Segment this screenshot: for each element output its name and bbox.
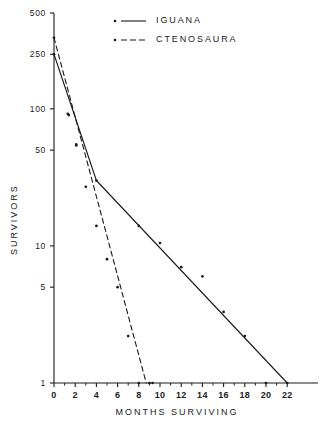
- data-point-iguana: [243, 335, 246, 338]
- series-line-ctenosaura: [54, 38, 146, 383]
- data-point-ctenosaura: [67, 114, 70, 117]
- x-axis-tick-label: 16: [218, 390, 229, 400]
- data-point-iguana: [53, 53, 56, 56]
- x-axis-title: MONTHS SURVIVING: [116, 407, 239, 417]
- legend-label-iguana: IGUANA: [156, 15, 202, 25]
- x-axis-tick-label: 4: [94, 390, 99, 400]
- x-axis-tick-label: 0: [51, 390, 56, 400]
- x-axis-tick-label: 20: [261, 390, 272, 400]
- data-point-ctenosaura: [137, 382, 140, 385]
- x-axis-tick-label: 10: [155, 390, 166, 400]
- y-axis-tick-label: 250: [12, 49, 46, 59]
- data-point-iguana: [95, 179, 98, 182]
- y-axis-tick-label: 5: [12, 282, 46, 292]
- legend-swatch-solid-icon: [112, 14, 150, 28]
- data-point-iguana: [159, 242, 162, 245]
- data-point-ctenosaura: [95, 225, 98, 228]
- data-point-ctenosaura: [75, 143, 78, 146]
- data-point-ctenosaura: [106, 258, 109, 261]
- data-point-iguana: [286, 382, 289, 385]
- x-axis-tick-label: 2: [73, 390, 78, 400]
- data-point-ctenosaura: [151, 382, 154, 385]
- x-axis-tick-label: 8: [136, 390, 141, 400]
- y-axis-tick-label: 100: [12, 104, 46, 114]
- x-axis-tick-label: 22: [282, 390, 293, 400]
- data-point-ctenosaura: [116, 286, 119, 289]
- series-line-iguana: [54, 54, 287, 383]
- chart-axes: [50, 13, 318, 387]
- legend-label-ctenosaura: CTENOSAURA: [156, 34, 238, 44]
- data-point-ctenosaura: [84, 185, 87, 188]
- data-point-iguana: [222, 311, 225, 314]
- data-point-iguana: [180, 266, 183, 269]
- data-point-iguana: [265, 382, 268, 385]
- x-axis-tick-label: 12: [176, 390, 187, 400]
- x-axis-tick-label: 18: [239, 390, 250, 400]
- data-point-iguana: [201, 275, 204, 278]
- data-point-iguana: [137, 225, 140, 228]
- data-point-ctenosaura: [127, 335, 130, 338]
- y-axis-title: SURVIVORS: [9, 184, 19, 255]
- y-axis-tick-label: 500: [12, 8, 46, 18]
- data-point-ctenosaura: [148, 382, 151, 385]
- chart-canvas: [0, 0, 325, 437]
- y-axis-tick-label: 1: [12, 378, 46, 388]
- legend-swatch-dashed-icon: [112, 33, 150, 47]
- chart-series: [53, 36, 289, 384]
- y-axis-tick-label: 50: [12, 145, 46, 155]
- survivorship-chart: 500250100501051 0246810121416182022 MONT…: [0, 0, 325, 437]
- x-axis-tick-label: 6: [115, 390, 120, 400]
- data-point-ctenosaura: [53, 36, 56, 39]
- x-axis-tick-label: 14: [197, 390, 208, 400]
